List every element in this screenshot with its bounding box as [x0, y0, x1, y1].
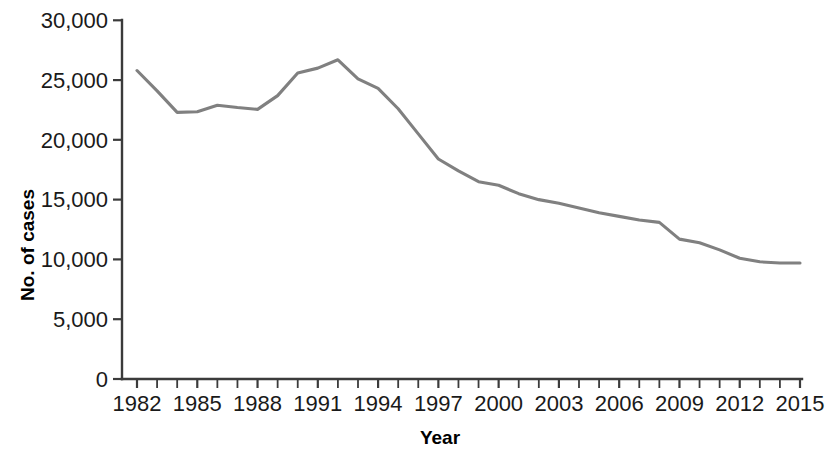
y-tick-label: 0: [96, 367, 108, 392]
x-tick-label: 1994: [354, 391, 403, 416]
y-tick-label: 20,000: [41, 128, 108, 153]
x-tick-label: 2006: [595, 391, 644, 416]
x-axis-title: Year: [420, 427, 461, 448]
y-tick-label: 25,000: [41, 68, 108, 93]
y-tick-label: 10,000: [41, 247, 108, 272]
x-tick-label: 1997: [414, 391, 463, 416]
x-tick-label: 2015: [776, 391, 825, 416]
x-tick-label: 1982: [113, 391, 162, 416]
y-tick-label: 5,000: [53, 307, 108, 332]
x-tick-label: 1988: [233, 391, 282, 416]
y-tick-label: 30,000: [41, 8, 108, 33]
x-tick-label: 2009: [655, 391, 704, 416]
x-tick-label: 2012: [715, 391, 764, 416]
line-chart: 30,000 25,000 20,000 15,000 10,000 5,000…: [0, 0, 828, 459]
chart-canvas: 30,000 25,000 20,000 15,000 10,000 5,000…: [0, 0, 828, 459]
x-tick-label: 1985: [173, 391, 222, 416]
x-tick-label: 2000: [474, 391, 523, 416]
y-axis-title: No. of cases: [17, 189, 38, 301]
x-tick-label: 1991: [293, 391, 342, 416]
y-tick-label: 15,000: [41, 187, 108, 212]
x-tick-label: 2003: [534, 391, 583, 416]
